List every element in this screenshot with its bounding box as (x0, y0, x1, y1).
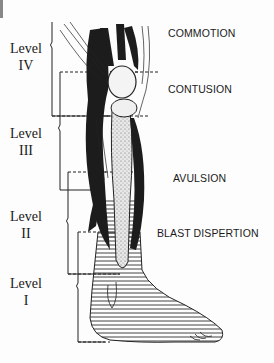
level-iii-numeral: III (2, 142, 50, 159)
commotion-label: COMMOTION (168, 27, 235, 39)
level-iv-label: Level IV (2, 40, 50, 74)
avulsion-label: AVULSION (173, 172, 226, 184)
level-iv-text: Level (10, 41, 42, 56)
level-iv-numeral: IV (2, 57, 50, 74)
level-ii-label: Level II (2, 208, 50, 242)
level-i-text: Level (10, 276, 42, 291)
level-i-label: Level I (2, 275, 50, 309)
knee-joint (108, 66, 137, 117)
level-ii-text: Level (10, 209, 42, 224)
foot-shape (90, 232, 223, 342)
level-iii-label: Level III (2, 125, 50, 159)
level-i-numeral: I (2, 292, 50, 309)
blast-dispertion-label: BLAST DISPERTION (157, 227, 259, 239)
level-iii-text: Level (10, 126, 42, 141)
contusion-label: CONTUSION (168, 83, 232, 95)
level-ii-numeral: II (2, 225, 50, 242)
